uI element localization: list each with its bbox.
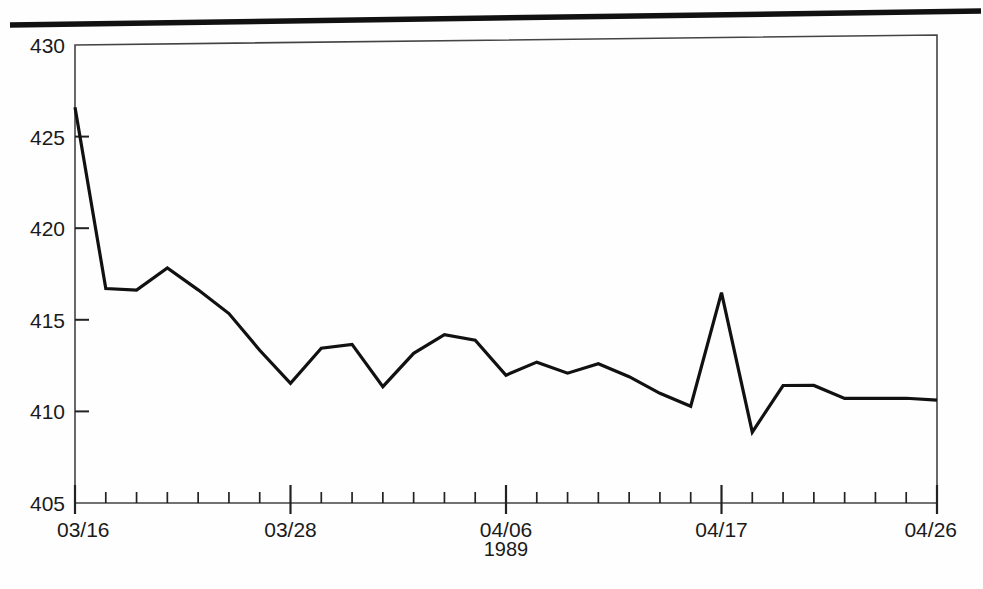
x-tick-label: 03/16 [57, 518, 110, 541]
line-chart: 405410415420425430 03/1603/2804/0604/170… [0, 0, 983, 589]
x-axis-title: 1989 [484, 538, 529, 560]
x-axis-ticks [75, 485, 937, 514]
y-tick-label: 415 [30, 309, 65, 332]
x-tick-label: 04/17 [695, 518, 748, 541]
y-tick-label: 425 [30, 126, 65, 149]
plot-frame [75, 35, 937, 503]
x-tick-label: 04/26 [904, 518, 957, 541]
y-tick-label: 410 [30, 400, 65, 423]
y-tick-label: 430 [30, 34, 65, 57]
x-tick-label: 03/28 [264, 518, 317, 541]
y-tick-label: 420 [30, 217, 65, 240]
chart-figure: 405410415420425430 03/1603/2804/0604/170… [0, 0, 983, 589]
y-axis-tick-labels: 405410415420425430 [30, 34, 65, 515]
y-tick-label: 405 [30, 492, 65, 515]
data-series-group [75, 107, 937, 432]
